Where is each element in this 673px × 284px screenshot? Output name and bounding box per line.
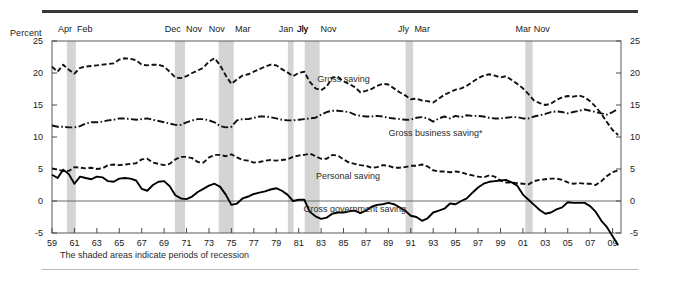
y-tick-label-left: 15 (33, 100, 43, 110)
x-tick-label: 07 (585, 238, 595, 248)
x-tick-label: 99 (495, 238, 505, 248)
x-tick-label: 91 (406, 238, 416, 248)
x-tick-label: 87 (361, 238, 371, 248)
series-annotation-2: Personal saving (316, 171, 380, 181)
x-tick-label: 65 (114, 238, 124, 248)
recession-band-1 (175, 41, 185, 233)
x-tick-label: 05 (563, 238, 573, 248)
y-tick-label-right: 20 (630, 68, 640, 78)
recession-band-3 (288, 41, 294, 233)
x-tick-label: 89 (383, 238, 393, 248)
x-tick-label: 95 (451, 238, 461, 248)
chart-figure: Percent AprFebDecNovNovMarJanJlyJlyNovJl… (0, 0, 673, 284)
x-tick-label: 93 (428, 238, 438, 248)
series-annotation-3: Gross government saving (303, 204, 406, 214)
y-tick-label-right: 0 (630, 196, 635, 206)
recession-band-6 (525, 41, 532, 233)
y-tick-label-right: 5 (630, 164, 635, 174)
x-tick-label: 01 (518, 238, 528, 248)
x-tick-label: 03 (540, 238, 550, 248)
y-tick-label-right: 10 (630, 132, 640, 142)
x-tick-label: 85 (338, 238, 348, 248)
y-tick-label-left: -5 (35, 228, 43, 238)
series-annotation-1: Gross business saving* (388, 128, 483, 138)
series-line-1 (52, 109, 618, 128)
x-tick-label: 75 (226, 238, 236, 248)
y-tick-label-left: 10 (33, 132, 43, 142)
series-annotation-0: Gross saving (317, 74, 370, 84)
chart-footnote: The shaded areas indicate periods of rec… (60, 250, 249, 260)
y-tick-label-right: 15 (630, 100, 640, 110)
series-group (52, 58, 618, 245)
x-tick-label: 97 (473, 238, 483, 248)
x-tick-label: 83 (316, 238, 326, 248)
series-annotations: Gross savingGross business saving*Person… (303, 74, 483, 214)
x-tick-label: 71 (182, 238, 192, 248)
x-tick-label: 77 (249, 238, 259, 248)
y-tick-label-right: -5 (630, 228, 638, 238)
x-tick-label: 67 (137, 238, 147, 248)
x-tick-label: 63 (92, 238, 102, 248)
x-tick-label: 73 (204, 238, 214, 248)
y-tick-label-left: 25 (33, 36, 43, 46)
x-tick-label: 61 (69, 238, 79, 248)
x-tick-label: 79 (271, 238, 281, 248)
x-tick-label: 81 (294, 238, 304, 248)
x-tick-label: 59 (47, 238, 57, 248)
series-line-0 (52, 58, 618, 135)
y-tick-label-left: 5 (38, 164, 43, 174)
y-tick-label-left: 0 (38, 196, 43, 206)
y-tick-label-left: 20 (33, 68, 43, 78)
y-tick-label-right: 25 (630, 36, 640, 46)
x-tick-label: 69 (159, 238, 169, 248)
plot-canvas: -5-5005510101515202025255961636567697173… (0, 0, 673, 284)
